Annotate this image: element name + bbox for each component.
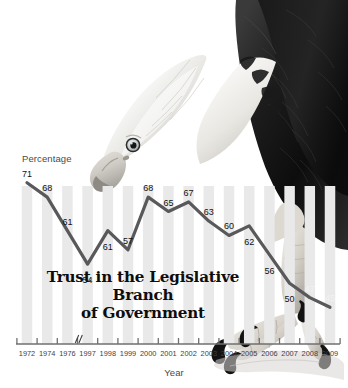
data-point-label: 47 [305, 284, 315, 294]
data-point-label: 57 [123, 236, 133, 246]
data-point-label: 67 [184, 188, 194, 198]
data-point-label: 50 [285, 294, 295, 304]
data-point-label: 62 [244, 237, 254, 247]
x-axis-tick-label: 2002 [180, 349, 196, 358]
chart-bar [284, 186, 295, 344]
axis-break-marker [75, 335, 82, 343]
data-point-label: 65 [163, 198, 173, 208]
data-point-label: 63 [204, 207, 214, 217]
x-axis-tick-label: 2007 [281, 349, 297, 358]
y-axis-label: Percentage [22, 153, 72, 164]
chart-bar [305, 186, 316, 344]
x-axis-tick-label: 2003 [201, 349, 217, 358]
infographic-chart: 7168615461576865676360625650474519721974… [0, 0, 348, 388]
x-axis-tick-label: 2006 [261, 349, 277, 358]
chart-title-line-1: Trust in the Legislative Branch [14, 268, 272, 304]
chart-title: Trust in the Legislative Branch of Gover… [14, 268, 272, 322]
data-point-label: 71 [22, 169, 32, 179]
chart-bar [325, 186, 336, 344]
x-axis-label: Year [0, 367, 348, 378]
x-axis-tick-label: 1997 [79, 349, 95, 358]
x-axis-tick-label: 1976 [59, 349, 75, 358]
x-axis-tick-label: 1974 [39, 349, 55, 358]
data-point-label: 61 [103, 242, 113, 252]
data-point-label: 45 [325, 293, 335, 303]
x-axis-tick-label: 2008 [302, 349, 318, 358]
line-chart [0, 0, 348, 388]
data-point-label: 68 [143, 183, 153, 193]
x-axis-tick-label: 1972 [19, 349, 35, 358]
x-axis-tick-label: 1998 [100, 349, 116, 358]
chart-title-line-2: of Government [14, 304, 272, 322]
x-axis-tick-label: 1999 [120, 349, 136, 358]
x-axis-tick-label: 2009 [322, 349, 338, 358]
data-point-label: 60 [224, 221, 234, 231]
x-axis-tick-label: 2004 [221, 349, 237, 358]
x-axis-tick-label: 2005 [241, 349, 257, 358]
data-point-label: 61 [62, 217, 72, 227]
x-axis-tick-label: 2000 [140, 349, 156, 358]
data-point-label: 68 [42, 183, 52, 193]
x-axis-tick-label: 2001 [160, 349, 176, 358]
